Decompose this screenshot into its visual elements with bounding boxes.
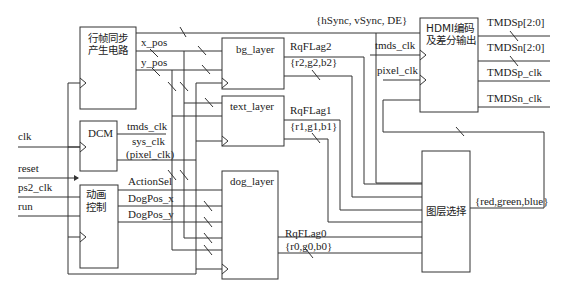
tmds-clk-label: tmds_clk (127, 120, 168, 132)
sync-gen-label-1: 行帧同步 (88, 32, 128, 44)
layer-select-block: 图层选择 (422, 151, 470, 272)
sync-gen-label-2: 产生电路 (88, 44, 129, 56)
dcm-label: DCM (88, 127, 113, 139)
hdmi-label-1: HDMI编码 (426, 22, 474, 34)
anim-ctrl-block: 动画 控制 (80, 185, 118, 268)
anim-ctrl-label-2: 控制 (86, 201, 106, 213)
rgb1-label: {r1,g1,b1} (290, 120, 337, 132)
dogpos-x-label: DogPos_x (128, 192, 174, 204)
text-layer-block: text_layer (222, 96, 284, 146)
sync-bus-label: {hSync, vSync, DE} (316, 14, 407, 26)
reset-input-label: reset (18, 162, 39, 174)
sys-clk-label: sys_clk (132, 135, 166, 147)
tmdsn-clk-output-label: TMDSn_clk (487, 92, 543, 104)
tmdsp-clk-output-label: TMDSp_clk (487, 66, 543, 78)
hdmi-pixel-clk-label: pixel_clk (377, 64, 418, 76)
rqflag1-label: RqFLag1 (290, 104, 332, 116)
hdmi-label-2: 及差分输出 (426, 34, 476, 46)
anim-ctrl-wires: ActionSel DogPos_x DogPos_y (118, 170, 222, 255)
bg-layer-block: bg_layer (222, 38, 284, 89)
rgb2-label: {r2,g2,b2} (290, 56, 337, 68)
rgb0-label: {r0,g0,b0} (285, 240, 332, 252)
tmdsn-output-label: TMDSn[2:0] (487, 41, 544, 53)
y-pos-label: y_pos (141, 56, 167, 68)
block-diagram: 行帧同步 产生电路 DCM 动画 控制 bg_layer text_layer … (0, 0, 564, 296)
bg-layer-label: bg_layer (236, 43, 275, 55)
run-input-label: run (18, 200, 33, 212)
dog-layer-label: dog_layer (230, 175, 274, 187)
hdmi-tmds-clk-label: tmds_clk (375, 39, 416, 51)
pixel-clk-paren-label: (pixel_clk) (126, 148, 175, 161)
sync-gen-block: 行帧同步 产生电路 (80, 27, 136, 109)
text-layer-label: text_layer (230, 100, 274, 112)
hdmi-encoder-block: HDMI编码 及差分输出 (420, 18, 478, 112)
rqflag2-label: RqFLag2 (290, 40, 332, 52)
clk-input-label: clk (18, 130, 32, 142)
dogpos-y-label: DogPos_y (128, 208, 174, 220)
layer-select-label: 图层选择 (426, 205, 467, 217)
action-sel-label: ActionSel (128, 175, 172, 187)
x-pos-label: x_pos (141, 36, 167, 48)
rgb-out-label: {red,green,blue} (475, 195, 548, 207)
anim-ctrl-label-1: 动画 (86, 188, 106, 200)
dcm-block: DCM (80, 121, 117, 171)
tmdsp-output-label: TMDSp[2:0] (487, 16, 544, 28)
ps2-clk-input-label: ps2_clk (18, 181, 53, 193)
dog-layer-block: dog_layer (222, 171, 278, 279)
